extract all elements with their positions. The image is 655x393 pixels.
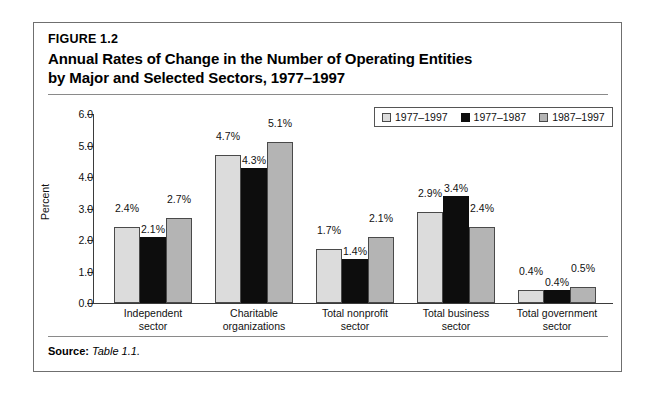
bar[interactable] <box>114 227 140 303</box>
x-axis-label: Total businesssector <box>401 307 511 332</box>
y-axis-tick-label: 6.0 <box>47 109 93 119</box>
title-divider <box>48 94 608 95</box>
y-axis-tick-label-wrap: 3.0 <box>34 209 93 210</box>
x-axis-label: Total governmentsector <box>502 307 612 332</box>
x-axis-label-line: sector <box>401 320 511 333</box>
bar-value-label: 2.7% <box>159 194 199 205</box>
bar[interactable] <box>342 259 368 303</box>
bar[interactable] <box>316 249 342 303</box>
figure-title-line-2: by Major and Selected Sectors, 1977–1997 <box>48 68 608 87</box>
bar[interactable] <box>469 227 495 303</box>
y-axis-tick-label: 5.0 <box>47 141 93 151</box>
bar-value-label: 2.4% <box>462 203 502 214</box>
y-axis-tick-label-wrap: 4.0 <box>34 177 93 178</box>
bar[interactable] <box>544 290 570 303</box>
bar-group: 2.9%3.4%2.4% <box>417 114 495 303</box>
x-axis-label: Charitableorganizations <box>199 307 309 332</box>
bar[interactable] <box>166 218 192 303</box>
bar[interactable] <box>570 287 596 303</box>
bar[interactable] <box>140 237 166 303</box>
figure-number: FIGURE 1.2 <box>48 31 608 47</box>
source-note: Source: Table 1.1. <box>48 344 140 358</box>
chart-plot-area: Percent 0.01.02.03.04.05.06.0 1977–19971… <box>34 101 623 336</box>
x-axis-label: Independentsector <box>98 307 208 332</box>
y-axis-tick-label: 4.0 <box>47 172 93 182</box>
x-axis-label-line: Independent <box>98 307 208 320</box>
x-axis-label-line: sector <box>502 320 612 333</box>
y-axis-tick-label-wrap: 1.0 <box>34 272 93 273</box>
x-axis-label-line: Charitable <box>199 307 309 320</box>
y-axis-tick-label: 2.0 <box>47 235 93 245</box>
bar-group: 0.4%0.4%0.5% <box>518 114 596 303</box>
bar-value-label: 2.4% <box>107 203 147 214</box>
bar[interactable] <box>518 290 544 303</box>
y-axis-tick-label: 3.0 <box>47 204 93 214</box>
bar-group: 1.7%1.4%2.1% <box>316 114 394 303</box>
bar-group: 4.7%4.3%5.1% <box>215 114 293 303</box>
bar[interactable] <box>241 168 267 303</box>
source-label: Source: <box>48 345 89 357</box>
bar-value-label: 2.1% <box>361 213 401 224</box>
x-axis-label-line: Total business <box>401 307 511 320</box>
x-axis-label: Total nonprofitsector <box>300 307 410 332</box>
x-axis-line <box>93 303 613 304</box>
bars-container: 2.4%2.1%2.7%4.7%4.3%5.1%1.7%1.4%2.1%2.9%… <box>94 114 613 303</box>
bar[interactable] <box>267 142 293 303</box>
bar-value-label: 5.1% <box>260 118 300 129</box>
x-axis-labels: IndependentsectorCharitableorganizations… <box>94 307 613 337</box>
x-axis-label-line: Total nonprofit <box>300 307 410 320</box>
y-axis-tick-label-wrap: 0.0 <box>34 303 93 304</box>
y-axis-tick-label: 0.0 <box>47 298 93 308</box>
figure-title-line-1: Annual Rates of Change in the Number of … <box>48 49 608 68</box>
bar-group: 2.4%2.1%2.7% <box>114 114 192 303</box>
x-axis-label-line: sector <box>300 320 410 333</box>
bar-value-label: 4.7% <box>208 131 248 142</box>
bar[interactable] <box>215 155 241 303</box>
bar-value-label: 3.4% <box>436 183 476 194</box>
bar[interactable] <box>417 212 443 303</box>
x-axis-label-line: organizations <box>199 320 309 333</box>
bar-value-label: 1.7% <box>309 225 349 236</box>
x-axis-label-line: sector <box>98 320 208 333</box>
source-divider <box>48 336 608 337</box>
bar-value-label: 0.5% <box>563 263 603 274</box>
y-axis-tick-label-wrap: 5.0 <box>34 146 93 147</box>
y-axis-tick-label: 1.0 <box>47 267 93 277</box>
figure-header: FIGURE 1.2 Annual Rates of Change in the… <box>48 31 608 87</box>
x-axis-label-line: Total government <box>502 307 612 320</box>
y-axis-tick-label-wrap: 6.0 <box>34 114 93 115</box>
figure-panel: FIGURE 1.2 Annual Rates of Change in the… <box>33 22 622 372</box>
bar[interactable] <box>368 237 394 303</box>
y-axis-tick-label-wrap: 2.0 <box>34 240 93 241</box>
source-value: Table 1.1. <box>92 345 140 357</box>
figure-title: Annual Rates of Change in the Number of … <box>48 49 608 87</box>
